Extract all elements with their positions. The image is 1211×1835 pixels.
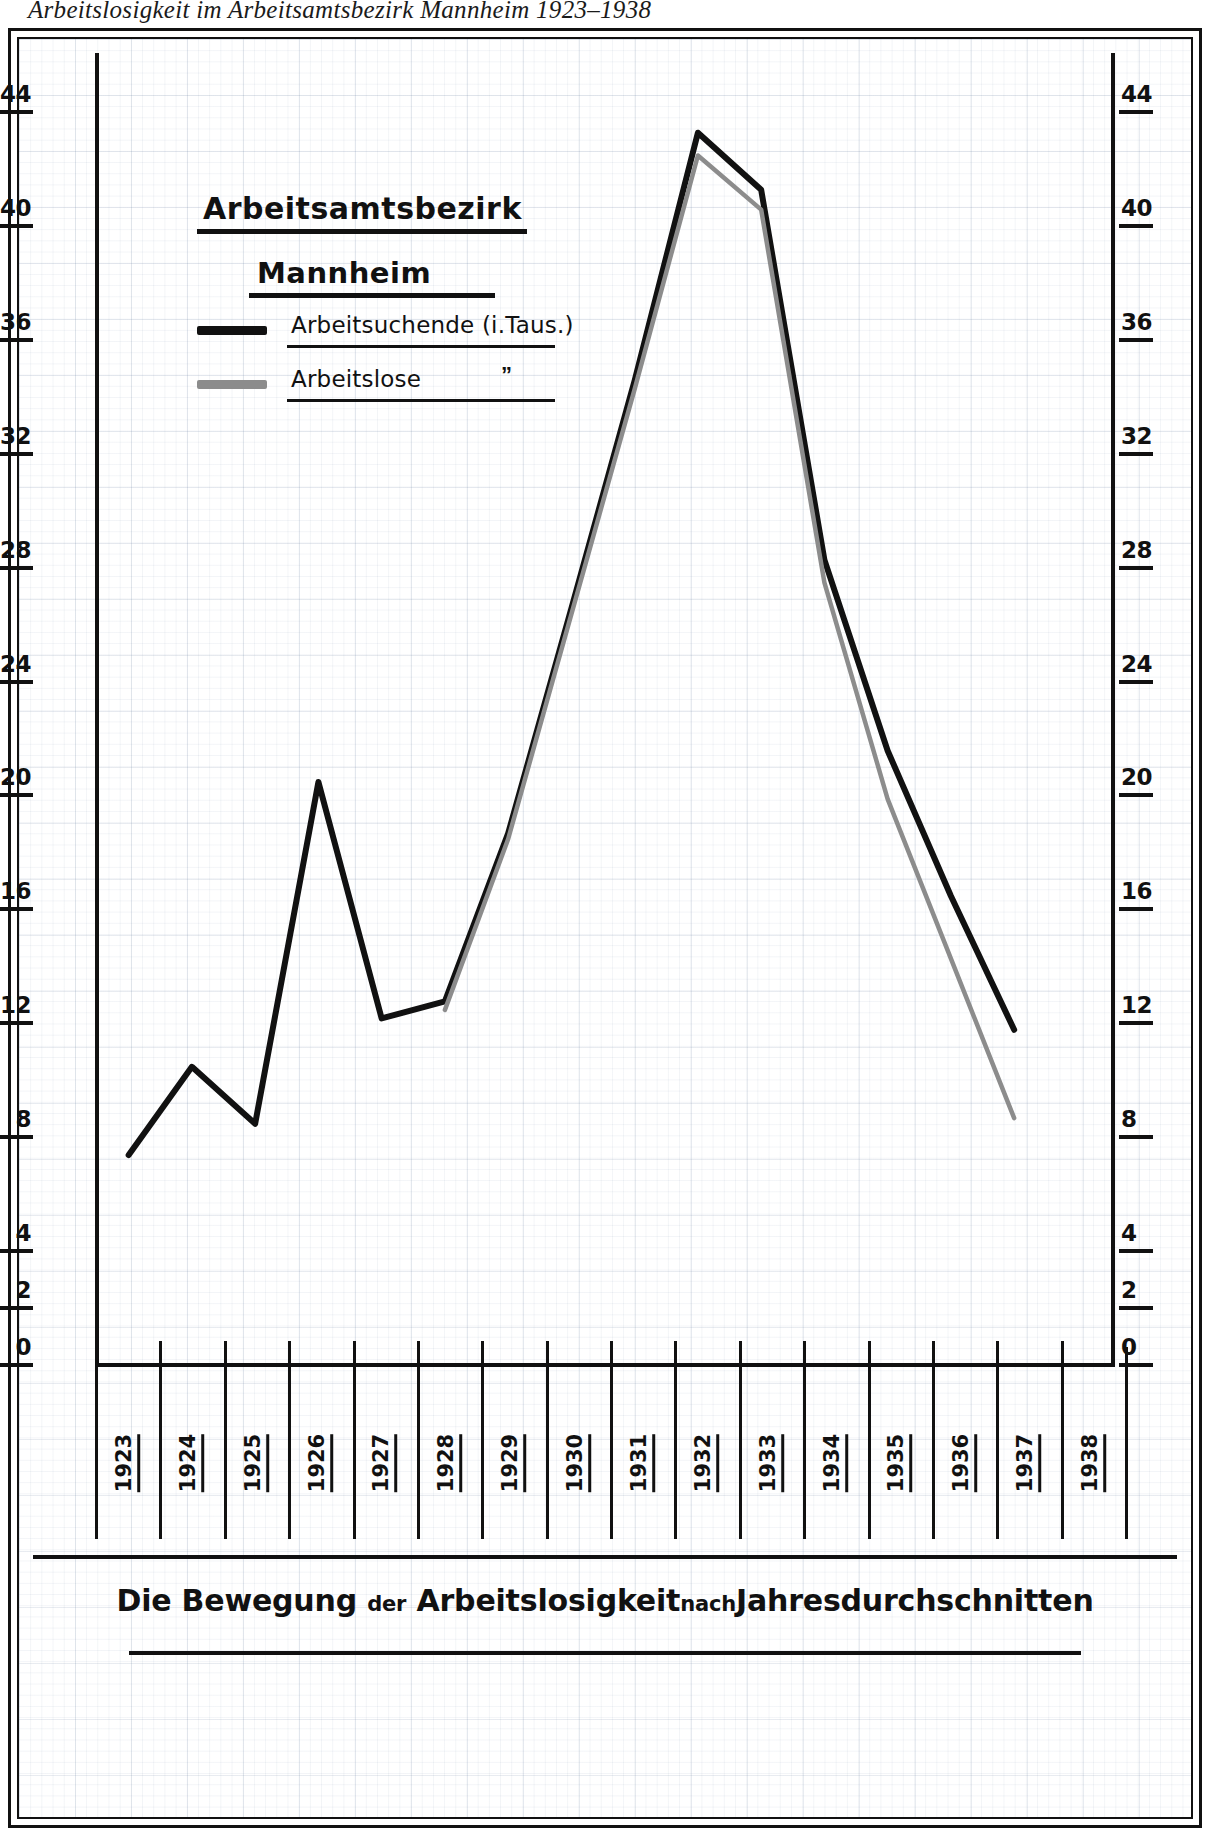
- y-tick-label: 24: [1121, 651, 1152, 677]
- y-tick-mark: [0, 224, 33, 228]
- chart-plate: 0248121620242832364044 02481216202428323…: [8, 28, 1202, 1828]
- x-tick-mark: [996, 1341, 999, 1363]
- x-axis-year-1935: 1935: [887, 1403, 913, 1523]
- x-axis-year-1932: 1932: [694, 1403, 720, 1523]
- x-axis-year-label: 1928: [436, 1434, 462, 1492]
- x-axis-year-1925: 1925: [243, 1403, 269, 1523]
- y-tick-mark: [0, 452, 33, 456]
- y-tick-mark: [1119, 1021, 1153, 1025]
- y-tick-label: 20: [1121, 764, 1152, 790]
- legend-ditto-mark: ”: [501, 362, 512, 388]
- x-axis-year-label: 1924: [179, 1434, 205, 1492]
- y-tick-label: 44: [1121, 81, 1152, 107]
- x-axis-year-1931: 1931: [629, 1403, 655, 1523]
- x-tick-mark: [739, 1341, 742, 1363]
- x-axis-year-label: 1929: [500, 1434, 526, 1492]
- x-axis-year-1929: 1929: [500, 1403, 526, 1523]
- x-axis-separator: [288, 1347, 291, 1539]
- x-axis-separator: [481, 1347, 484, 1539]
- caption-part-2: Arbeitslosigkeit: [417, 1583, 681, 1618]
- x-tick-mark: [159, 1341, 162, 1363]
- x-axis-separator: [546, 1347, 549, 1539]
- y-tick-mark: [1119, 110, 1153, 114]
- y-tick-mark: [0, 1021, 33, 1025]
- legend-item-underline-2: [287, 399, 555, 402]
- y-tick-label: 16: [1121, 878, 1152, 904]
- y-tick-mark: [0, 1249, 33, 1253]
- y-tick-mark: [0, 566, 33, 570]
- y-tick-mark: [0, 680, 33, 684]
- x-axis-year-1934: 1934: [822, 1403, 848, 1523]
- x-tick-mark: [417, 1341, 420, 1363]
- y-tick-mark: [1119, 338, 1153, 342]
- chart-legend: Arbeitsamtsbezirk Mannheim Arbeitsuchend…: [191, 191, 551, 406]
- x-axis-separator: [1125, 1347, 1128, 1539]
- x-tick-mark: [353, 1341, 356, 1363]
- y-tick-mark: [1119, 680, 1153, 684]
- legend-swatch-arbeitsuchende: [197, 326, 267, 335]
- y-tick-mark: [1119, 793, 1153, 797]
- x-axis-band: 1923192419251926192719281929193019311932…: [33, 1363, 1177, 1553]
- x-tick-mark: [224, 1341, 227, 1363]
- y-tick-label: 12: [1121, 992, 1152, 1018]
- chart-caption: Die Bewegung der ArbeitslosigkeitnachJah…: [33, 1583, 1177, 1618]
- x-axis-year-1926: 1926: [307, 1403, 333, 1523]
- x-axis-year-label: 1935: [887, 1434, 913, 1492]
- caption-part-1: Die Bewegung: [116, 1583, 357, 1618]
- x-axis-year-label: 1936: [951, 1434, 977, 1492]
- y-tick-label: 8: [15, 1106, 31, 1132]
- x-axis-year-label: 1932: [694, 1434, 720, 1492]
- y-tick-mark: [1119, 1306, 1153, 1310]
- chart-frame: 0248121620242832364044 02481216202428323…: [17, 37, 1193, 1819]
- x-tick-mark: [868, 1341, 871, 1363]
- y-tick-label: 28: [0, 537, 31, 563]
- y-tick-label: 0: [15, 1334, 31, 1360]
- x-axis-separator: [95, 1347, 98, 1539]
- legend-heading-district: Arbeitsamtsbezirk: [191, 191, 551, 226]
- caption-small-2: nach: [680, 1592, 736, 1616]
- legend-item-arbeitslose: Arbeitslose ”: [191, 366, 551, 406]
- x-axis-year-1928: 1928: [436, 1403, 462, 1523]
- x-axis-line: [95, 1363, 1115, 1367]
- x-axis-year-1937: 1937: [1015, 1403, 1041, 1523]
- y-tick-label: 28: [1121, 537, 1152, 563]
- x-axis-year-label: 1927: [372, 1434, 398, 1492]
- x-axis-separator: [353, 1347, 356, 1539]
- x-tick-mark: [610, 1341, 613, 1363]
- y-tick-label: 12: [0, 992, 31, 1018]
- y-tick-mark: [0, 793, 33, 797]
- y-tick-label: 20: [0, 764, 31, 790]
- y-tick-mark: [0, 907, 33, 911]
- y-tick-label: 4: [15, 1220, 31, 1246]
- x-axis-separator: [224, 1347, 227, 1539]
- legend-label-arbeitslose: Arbeitslose: [291, 366, 421, 392]
- x-tick-mark: [1061, 1341, 1064, 1363]
- x-axis-separator: [1061, 1347, 1064, 1539]
- y-tick-label: 8: [1121, 1106, 1137, 1132]
- y-tick-label: 32: [1121, 423, 1152, 449]
- legend-item-arbeitsuchende: Arbeitsuchende (i.Taus.): [191, 312, 551, 352]
- y-tick-mark: [1119, 566, 1153, 570]
- y-tick-label: 0: [1121, 1334, 1137, 1360]
- x-axis-year-label: 1934: [822, 1434, 848, 1492]
- y-tick-label: 16: [0, 878, 31, 904]
- x-tick-mark: [803, 1341, 806, 1363]
- x-axis-separator: [610, 1347, 613, 1539]
- x-axis-separator: [417, 1347, 420, 1539]
- x-axis-year-label: 1925: [243, 1434, 269, 1492]
- x-axis-year-label: 1937: [1015, 1434, 1041, 1492]
- y-tick-label: 36: [1121, 309, 1152, 335]
- x-axis-year-label: 1938: [1080, 1434, 1106, 1492]
- x-axis-separator: [996, 1347, 999, 1539]
- x-axis-separator: [803, 1347, 806, 1539]
- y-tick-label: 40: [0, 195, 31, 221]
- x-axis-year-label: 1926: [307, 1434, 333, 1492]
- legend-item-underline-1: [287, 345, 555, 348]
- y-tick-label: 36: [0, 309, 31, 335]
- y-tick-mark: [1119, 224, 1153, 228]
- x-axis-year-1923: 1923: [114, 1403, 140, 1523]
- x-tick-mark: [546, 1341, 549, 1363]
- x-axis-year-1927: 1927: [372, 1403, 398, 1523]
- legend-heading-city: Mannheim: [191, 256, 551, 290]
- x-axis-year-label: 1930: [565, 1434, 591, 1492]
